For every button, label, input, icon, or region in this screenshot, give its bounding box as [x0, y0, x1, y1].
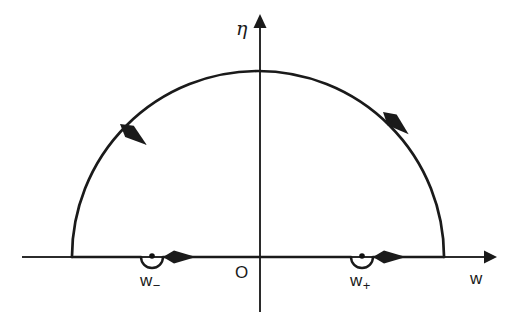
imaginary-axis-label: η — [236, 19, 247, 38]
pole-label-w-minus-subscript: − — [152, 278, 160, 293]
pole-label-w-plus-base: w — [350, 271, 362, 290]
origin-label: O — [235, 264, 248, 281]
real-axis-label: w — [470, 270, 482, 287]
contour-direction-arrow-right-icon — [373, 251, 406, 264]
pole-dot-w-minus-icon — [149, 253, 155, 259]
pole-label-w-minus: w− — [140, 272, 160, 292]
contour-diagram-canvas — [0, 0, 515, 323]
contour-figure: η w O w− w+ — [0, 0, 515, 323]
contour-arc-arrow-left-icon — [116, 118, 151, 150]
pole-label-w-plus: w+ — [350, 272, 370, 292]
pole-label-w-minus-base: w — [140, 271, 152, 290]
contour-direction-arrow-left-icon — [163, 251, 196, 264]
imaginary-axis-arrowhead-icon — [254, 14, 267, 28]
semicircle-contour-arc — [72, 71, 444, 257]
pole-dot-w-plus-icon — [359, 253, 365, 259]
real-axis-arrowhead-icon — [484, 251, 497, 264]
pole-label-w-plus-subscript: + — [362, 278, 370, 293]
contour-arc-arrow-right-icon — [378, 107, 413, 140]
